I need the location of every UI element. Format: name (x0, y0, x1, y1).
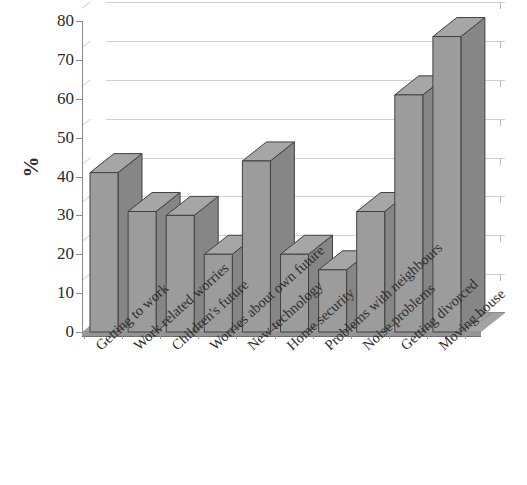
bars-canvas (0, 0, 527, 485)
bar-1-front-face (90, 173, 118, 332)
bar-chart: % 01020304050607080 Getting to workWork … (0, 0, 527, 485)
